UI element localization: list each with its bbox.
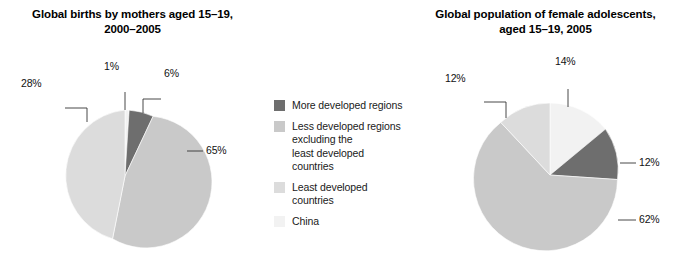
leader-line-least-developed [65, 108, 87, 122]
legend-line: More developed regions [292, 99, 402, 112]
chart-panel-global-births: Global births by mothers aged 15–19, 200… [0, 0, 265, 277]
legend-label-china: China [292, 215, 319, 228]
data-label-more-developed-left: 6% [164, 67, 179, 79]
leader-line-more-developed [143, 99, 161, 113]
legend-line: countries [292, 160, 401, 173]
pie-right-svg [476, 101, 624, 249]
pie-slice-least-developed [66, 110, 125, 239]
data-label-more-developed-right: 12% [639, 156, 659, 168]
leader-line-least-developed [484, 102, 506, 118]
legend-swatch-icon-less-developed-regions [274, 121, 285, 132]
pie-chart-right: 14% 12% 62% 12% [410, 0, 681, 277]
pie-left-svg [57, 108, 193, 244]
legend-label-least-developed-countries: Least developed countries [292, 181, 368, 207]
legend-line: Less developed regions [292, 120, 401, 133]
legend-label-less-developed-regions: Less developed regions excluding the lea… [292, 120, 401, 173]
legend-item-least-developed-countries: Least developed countries [274, 181, 410, 207]
pie-chart-left: 1% 6% 65% 28% [0, 0, 265, 277]
data-label-least-developed-right: 12% [445, 72, 465, 84]
legend-swatch-icon-more-developed-regions [274, 100, 285, 111]
legend-item-more-developed-regions: More developed regions [274, 99, 410, 112]
legend-line: excluding the [292, 133, 401, 146]
legend-swatch-icon-least-developed-countries [274, 182, 285, 193]
legend: More developed regions Less developed re… [274, 99, 410, 237]
data-label-china-left: 1% [104, 60, 119, 72]
legend-line: China [292, 215, 319, 228]
legend-label-more-developed-regions: More developed regions [292, 99, 402, 112]
legend-line: Least developed [292, 181, 368, 194]
data-label-less-developed-left: 65% [206, 144, 226, 156]
legend-line: least developed [292, 147, 401, 160]
legend-line: countries [292, 194, 368, 207]
chart-panel-global-population: Global population of female adolescents,… [410, 0, 681, 277]
data-label-least-developed-left: 28% [21, 77, 41, 89]
legend-item-less-developed-regions: Less developed regions excluding the lea… [274, 120, 410, 173]
legend-item-china: China [274, 215, 410, 228]
legend-swatch-icon-china [274, 216, 285, 227]
data-label-less-developed-right: 62% [639, 213, 659, 225]
data-label-china-right: 14% [555, 55, 575, 67]
